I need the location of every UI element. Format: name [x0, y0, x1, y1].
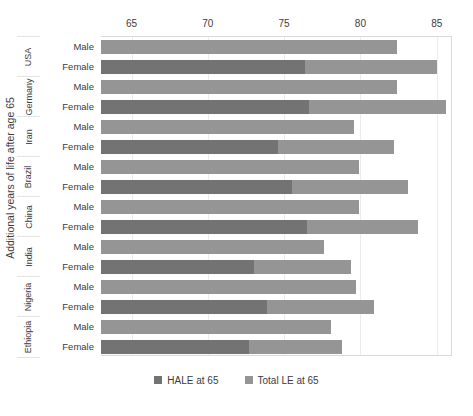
- bar-row[interactable]: [101, 180, 452, 194]
- bar-row[interactable]: [101, 140, 452, 154]
- bar-row[interactable]: [101, 320, 452, 334]
- subcategory-label-brazil-female: Female: [40, 176, 97, 196]
- bar-hale[interactable]: [101, 100, 309, 114]
- group-label-china: China: [17, 196, 40, 237]
- bar-total-le[interactable]: [101, 40, 397, 54]
- x-tick-label-75: 75: [279, 18, 290, 29]
- group-label-text: India: [24, 247, 34, 267]
- bar-total-le[interactable]: [101, 80, 397, 94]
- legend-swatch-icon: [245, 376, 253, 384]
- bar-row[interactable]: [101, 120, 452, 134]
- subcategory-label-column: MaleFemaleMaleFemaleMaleFemaleMaleFemale…: [40, 36, 100, 356]
- bar-hale[interactable]: [101, 140, 278, 154]
- legend-item-hale[interactable]: HALE at 65: [154, 375, 218, 386]
- group-label-text: China: [24, 205, 34, 229]
- bar-row[interactable]: [101, 260, 452, 274]
- x-tick-label-70: 70: [202, 18, 213, 29]
- group-label-text: Brazil: [23, 166, 33, 189]
- bar-total-le[interactable]: [101, 320, 331, 334]
- legend-swatch-icon: [154, 376, 162, 384]
- bar-row[interactable]: [101, 240, 452, 254]
- subcategory-label-germany-male: Male: [40, 76, 97, 96]
- bar-hale[interactable]: [101, 340, 249, 354]
- group-label-ethiopia: Ethiopia: [17, 316, 40, 358]
- bar-hale[interactable]: [101, 260, 254, 274]
- plot-area: [101, 36, 452, 356]
- subcategory-label-iran-female: Female: [40, 136, 97, 156]
- bar-row[interactable]: [101, 340, 452, 354]
- bar-total-le[interactable]: [101, 240, 324, 254]
- bar-row[interactable]: [101, 220, 452, 234]
- x-tick-label-80: 80: [355, 18, 366, 29]
- legend-item-total-le[interactable]: Total LE at 65: [245, 375, 319, 386]
- subcategory-label-germany-female: Female: [40, 96, 97, 116]
- bar-row[interactable]: [101, 160, 452, 174]
- subcategory-label-china-male: Male: [40, 196, 97, 216]
- group-label-text: USA: [23, 48, 33, 67]
- bar-hale[interactable]: [101, 300, 267, 314]
- group-label-text: Nigeria: [24, 283, 34, 312]
- bar-row[interactable]: [101, 300, 452, 314]
- subcategory-label-usa-female: Female: [40, 56, 97, 76]
- bar-row[interactable]: [101, 60, 452, 74]
- group-label-text: Iran: [23, 129, 33, 145]
- x-tick-label-85: 85: [431, 18, 442, 29]
- subcategory-label-china-female: Female: [40, 216, 97, 236]
- subcategory-label-ethiopia-male: Male: [40, 316, 97, 336]
- subcategory-label-usa-male: Male: [40, 36, 97, 56]
- legend-label: HALE at 65: [167, 375, 218, 386]
- chart-legend: HALE at 65Total LE at 65: [0, 372, 473, 388]
- y-axis-title: Additional years of life after age 65: [2, 0, 18, 356]
- subcategory-label-iran-male: Male: [40, 116, 97, 136]
- bar-row[interactable]: [101, 40, 452, 54]
- group-label-usa: USA: [17, 36, 40, 77]
- subcategory-label-ethiopia-female: Female: [40, 336, 97, 356]
- bar-total-le[interactable]: [101, 280, 356, 294]
- bar-hale[interactable]: [101, 180, 292, 194]
- group-label-nigeria: Nigeria: [17, 276, 40, 317]
- bar-total-le[interactable]: [101, 200, 359, 214]
- bar-row[interactable]: [101, 80, 452, 94]
- x-tick-label-65: 65: [126, 18, 137, 29]
- subcategory-label-brazil-male: Male: [40, 156, 97, 176]
- bar-row[interactable]: [101, 200, 452, 214]
- x-axis-tick-labels: 6570758085: [101, 18, 452, 32]
- group-label-text: Germany: [24, 78, 34, 115]
- subcategory-label-india-male: Male: [40, 236, 97, 256]
- group-label-iran: Iran: [17, 116, 40, 157]
- group-label-brazil: Brazil: [17, 156, 40, 197]
- bar-hale[interactable]: [101, 220, 307, 234]
- legend-label: Total LE at 65: [258, 375, 319, 386]
- subcategory-label-nigeria-male: Male: [40, 276, 97, 296]
- bar-row[interactable]: [101, 280, 452, 294]
- subcategory-label-nigeria-female: Female: [40, 296, 97, 316]
- bar-hale[interactable]: [101, 60, 305, 74]
- bar-total-le[interactable]: [101, 120, 354, 134]
- subcategory-label-india-female: Female: [40, 256, 97, 276]
- group-label-text: Ethiopia: [24, 321, 34, 354]
- bar-row[interactable]: [101, 100, 452, 114]
- bar-total-le[interactable]: [101, 160, 359, 174]
- chart-container: Additional years of life after age 65 65…: [0, 0, 473, 416]
- group-label-india: India: [17, 236, 40, 277]
- group-label-germany: Germany: [17, 76, 40, 117]
- group-label-column: USAGermanyIranBrazilChinaIndiaNigeriaEth…: [17, 36, 40, 356]
- y-axis-title-text: Additional years of life after age 65: [4, 97, 16, 259]
